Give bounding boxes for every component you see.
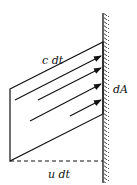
label-dA: dA bbox=[113, 83, 128, 96]
flux-diagram: c dt dA u dt bbox=[0, 0, 137, 185]
arrow-icon bbox=[70, 100, 101, 116]
label-u-dt: u dt bbox=[48, 168, 71, 181]
wall bbox=[103, 13, 109, 183]
label-c-dt: c dt bbox=[42, 54, 64, 67]
arrow-icon bbox=[30, 84, 101, 121]
